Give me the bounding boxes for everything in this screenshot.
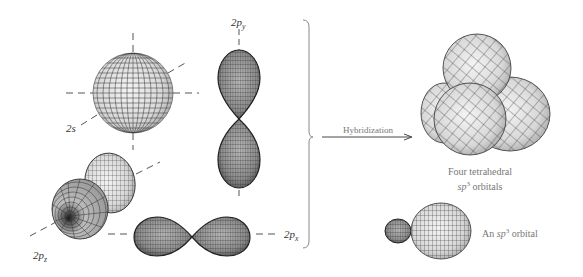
orbital-2px (108, 215, 278, 259)
label-2py: 2py (231, 17, 245, 31)
orbital-2py (215, 29, 263, 200)
tetrahedral-sp3-cluster (420, 33, 552, 156)
sp-italic-single: sp (497, 228, 506, 239)
tetrahedral-caption: Four tetrahedral sp3 orbitals (430, 165, 530, 193)
label-2py-main: 2p (231, 16, 242, 28)
label-2px-main: 2p (284, 228, 295, 240)
label-2pz-main: 2p (33, 249, 44, 261)
hybridization-diagram: 2s 2py 2pz 2px Hybridization Four tetrah… (0, 0, 583, 277)
orbital-word: orbital (509, 228, 538, 239)
label-2s: 2s (66, 123, 76, 134)
label-2py-sub: y (242, 22, 245, 31)
label-2px: 2px (284, 229, 298, 243)
tetrahedral-caption-line2: sp3 orbitals (430, 178, 530, 193)
hybridization-text: Hybridization (343, 125, 393, 135)
label-2pz-sub: z (44, 255, 47, 264)
label-2px-sub: x (295, 234, 298, 243)
single-sp3-orbital (384, 202, 472, 260)
orbital-2s (66, 33, 199, 150)
label-2s-text: 2s (66, 122, 76, 134)
hybridization-label: Hybridization (336, 124, 400, 137)
orbitals-word: orbitals (470, 181, 503, 192)
grouping-brace (303, 20, 313, 248)
label-2pz: 2pz (33, 250, 47, 264)
tetrahedral-caption-line1: Four tetrahedral (430, 165, 530, 178)
single-sp3-caption: An sp3 orbital (482, 225, 538, 240)
an-word: An (482, 228, 497, 239)
